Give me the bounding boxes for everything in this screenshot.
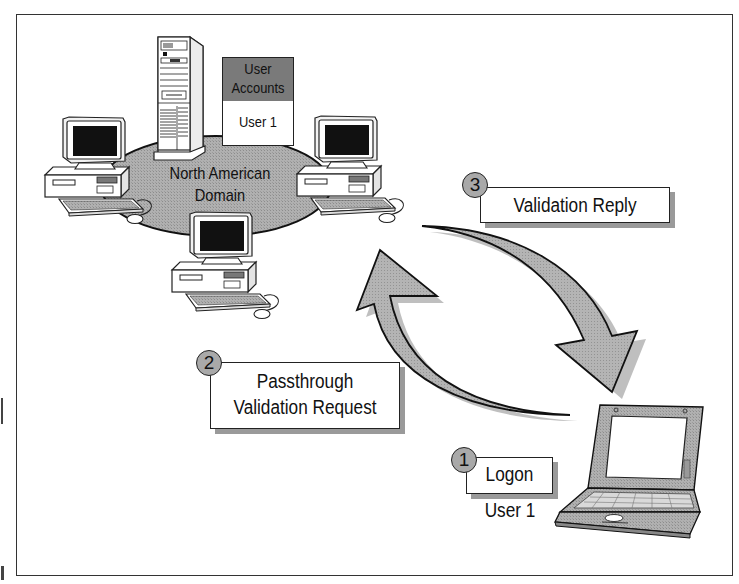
- step-3-label: Validation Reply: [493, 194, 656, 217]
- validation-reply-arrow: [422, 226, 646, 399]
- step-2-label-line1: Passthrough: [223, 370, 386, 393]
- server-icon: [154, 37, 205, 160]
- user-accounts-title-line2: Accounts: [220, 79, 296, 96]
- domain-name-line1: North American: [151, 164, 289, 184]
- step-2-badge: 2: [196, 350, 222, 376]
- user-accounts-title-line1: User: [227, 60, 289, 77]
- step-1-user-label: User 1: [476, 499, 545, 522]
- step-1-label: Logon: [472, 463, 547, 486]
- laptop-icon: [555, 405, 703, 538]
- step-2-label-line2: Validation Request: [215, 396, 396, 419]
- step-3-badge: 3: [462, 172, 488, 198]
- user-accounts-entry: User 1: [227, 113, 289, 130]
- step-1-badge: 1: [451, 447, 477, 473]
- diagram-canvas: User Accounts User 1 North American Doma…: [0, 0, 739, 584]
- domain-name-line2: Domain: [168, 186, 271, 206]
- illustration: [0, 0, 739, 584]
